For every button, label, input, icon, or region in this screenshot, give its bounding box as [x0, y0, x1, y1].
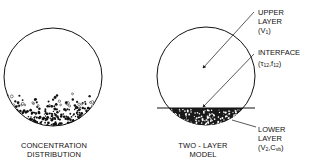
label-line: (τ12,f12): [258, 59, 300, 70]
label-line: (V1): [258, 26, 284, 37]
lower-layer-label: LOWER LAYER (V2,Cvb): [258, 125, 286, 154]
upper-layer-label: UPPER LAYER (V1): [258, 8, 284, 37]
label-line: LAYER: [258, 17, 284, 26]
label-line: LOWER: [258, 125, 286, 134]
label-line: (V2,Cvb): [258, 143, 286, 154]
caption-line: MODEL: [168, 151, 238, 160]
concentration-distribution-caption: CONCENTRATION DISTRIBUTION: [10, 142, 98, 159]
label-line: INTERFACE: [258, 48, 300, 57]
two-layer-model-caption: TWO - LAYER MODEL: [168, 142, 238, 159]
label-line: LAYER: [258, 134, 286, 143]
label-line: UPPER: [258, 8, 284, 17]
two-layer-model-circle: [150, 27, 262, 128]
interface-label: INTERFACE (τ12,f12): [258, 48, 300, 70]
lower-layer-leader: [232, 120, 256, 127]
caption-line: DISTRIBUTION: [10, 151, 98, 160]
concentration-distribution-circle: [4, 28, 102, 129]
